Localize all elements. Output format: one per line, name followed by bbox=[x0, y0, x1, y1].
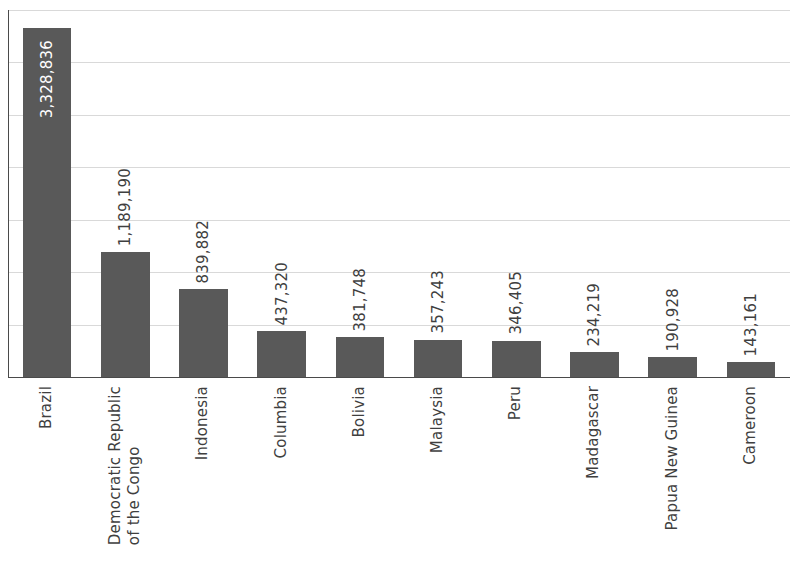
x-axis-tick-label: Brazil bbox=[8, 382, 86, 574]
x-axis-label-line: Madagascar bbox=[586, 386, 603, 479]
x-axis-label-line: Democratic Republic bbox=[108, 386, 125, 545]
x-axis-label-line: Brazil bbox=[38, 386, 55, 429]
bar-chart: 3,328,8361,189,190839,882437,320381,7483… bbox=[0, 0, 795, 577]
x-axis-tick-label: Madagascar bbox=[555, 382, 633, 574]
x-axis-label-line: Papua New Guinea bbox=[664, 386, 681, 530]
bar[interactable] bbox=[179, 289, 227, 377]
bar[interactable] bbox=[336, 337, 384, 377]
x-axis-tick-label: Papua New Guinea bbox=[634, 382, 712, 574]
bar[interactable] bbox=[570, 352, 618, 377]
x-axis-label-line: Bolivia bbox=[351, 386, 368, 437]
x-axis-tick-label: Indonesia bbox=[164, 382, 242, 574]
bar-group[interactable]: 234,219 bbox=[570, 10, 618, 377]
bar-value-label: 1,189,190 bbox=[118, 168, 133, 246]
bar[interactable] bbox=[492, 341, 540, 377]
bar-group[interactable]: 381,748 bbox=[336, 10, 384, 377]
bar-value-label: 143,161 bbox=[743, 293, 758, 356]
x-axis-label-line: Malaysia bbox=[429, 386, 446, 453]
x-axis-label-line: Indonesia bbox=[195, 386, 212, 460]
bar-value-label: 381,748 bbox=[352, 268, 367, 331]
bars-layer: 3,328,8361,189,190839,882437,320381,7483… bbox=[8, 10, 790, 377]
bar-value-label: 346,405 bbox=[509, 271, 524, 334]
x-axis-line bbox=[8, 377, 790, 378]
bar-group[interactable]: 143,161 bbox=[727, 10, 775, 377]
bar-value-label: 357,243 bbox=[431, 270, 446, 333]
bar[interactable] bbox=[101, 252, 149, 377]
bar-group[interactable]: 1,189,190 bbox=[101, 10, 149, 377]
bar-group[interactable]: 346,405 bbox=[492, 10, 540, 377]
bar-value-label: 839,882 bbox=[196, 220, 211, 283]
bar[interactable] bbox=[414, 340, 462, 377]
bar-group[interactable]: 839,882 bbox=[179, 10, 227, 377]
x-axis-tick-label: Malaysia bbox=[399, 382, 477, 574]
x-axis-label-line: Cameroon bbox=[742, 386, 759, 465]
x-axis-tick-label: Bolivia bbox=[321, 382, 399, 574]
bar-group[interactable]: 437,320 bbox=[257, 10, 305, 377]
x-axis-tick-label: Democratic Republicof the Congo bbox=[86, 382, 164, 574]
bar-value-label: 190,928 bbox=[665, 288, 680, 351]
x-axis-tick-label: Columbia bbox=[243, 382, 321, 574]
x-axis-tick-label: Cameroon bbox=[712, 382, 790, 574]
x-axis-label-line: Peru bbox=[508, 386, 525, 420]
x-axis-tick-label: Peru bbox=[477, 382, 555, 574]
bar-value-label: 3,328,836 bbox=[40, 40, 55, 118]
bar-group[interactable]: 3,328,836 bbox=[23, 10, 71, 377]
bar-value-label: 234,219 bbox=[587, 283, 602, 346]
bar-value-label: 437,320 bbox=[274, 262, 289, 325]
bar[interactable] bbox=[648, 357, 696, 377]
x-axis-labels: BrazilDemocratic Republicof the CongoInd… bbox=[8, 382, 790, 574]
bar[interactable] bbox=[257, 331, 305, 377]
x-axis-label-line: Columbia bbox=[273, 386, 290, 458]
bar-group[interactable]: 357,243 bbox=[414, 10, 462, 377]
bar-group[interactable]: 190,928 bbox=[648, 10, 696, 377]
bar[interactable] bbox=[727, 362, 775, 377]
x-axis-label-line: of the Congo bbox=[126, 386, 143, 545]
